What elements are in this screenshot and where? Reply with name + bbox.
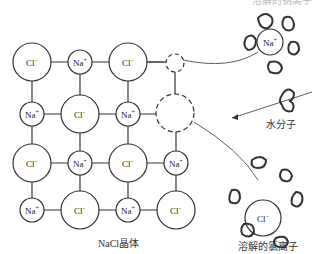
cl-ion: Cl− (74, 109, 86, 120)
cl-ion: Cl− (26, 57, 38, 68)
na-ion: Na+ (25, 205, 39, 216)
na-ion: Na+ (73, 57, 87, 68)
cl-ion: Cl− (74, 205, 86, 216)
cl-ion: Cl− (122, 57, 134, 68)
sodium-label-partial: 溶解的钠离子 (252, 0, 312, 7)
na-ion: Na+ (169, 158, 183, 169)
cl-ion: Cl− (122, 158, 134, 169)
hydrated-na-ion: Na+ (263, 37, 277, 48)
na-ion: Na+ (121, 205, 135, 216)
na-ion: Na+ (73, 158, 87, 169)
na-ion: Na+ (121, 109, 135, 120)
hydrated-cl-ion: Cl− (257, 213, 269, 224)
chloride-label: 溶解的氯离子 (238, 238, 298, 253)
lattice-caption: NaCl晶体 (98, 235, 139, 250)
cl-ion: Cl− (170, 205, 182, 216)
cl-ion: Cl− (26, 158, 38, 169)
na-ion: Na+ (25, 109, 39, 120)
water-label: 水分子 (266, 116, 296, 131)
diagram-root: Cl− Na+ Cl− Na+ Cl− Na+ Cl− Na+ Cl− Na+ … (0, 0, 319, 254)
